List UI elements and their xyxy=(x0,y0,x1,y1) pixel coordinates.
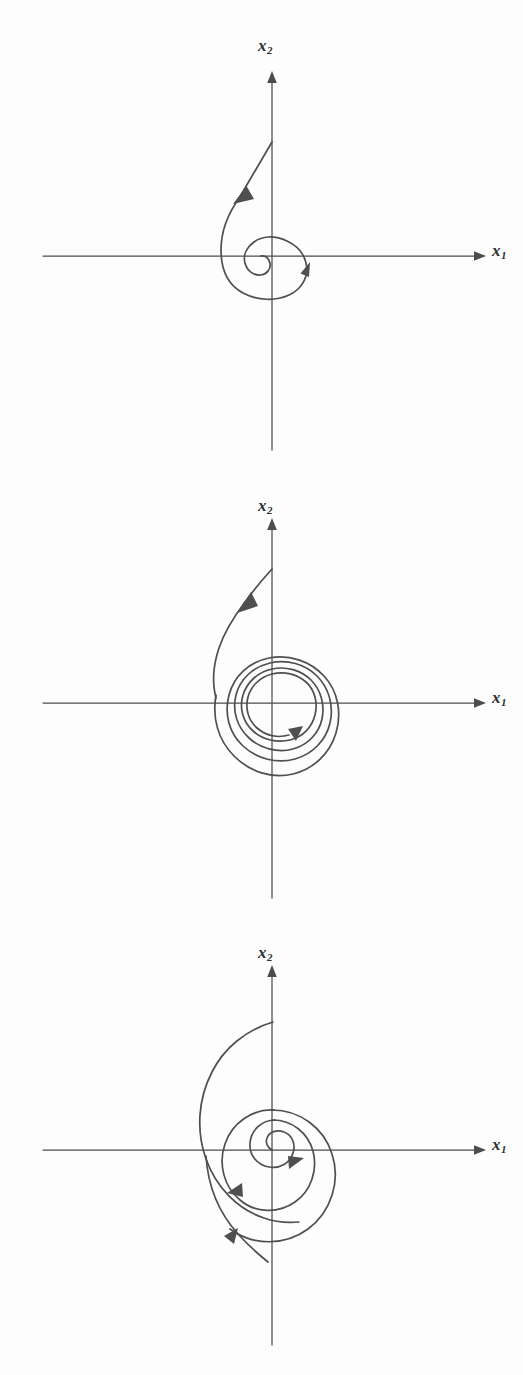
trajectory-p2 xyxy=(214,569,339,776)
trajectory-p1 xyxy=(221,142,310,299)
x2-axis-label-text-p3: x2 xyxy=(258,943,272,963)
x2-axis-p2 xyxy=(267,518,277,898)
x1-axis-p2 xyxy=(43,698,486,708)
x1-axis-label-text-p1: x1 xyxy=(492,241,506,261)
trajectory-p3 xyxy=(200,1022,336,1262)
phase-portrait-panel-1 xyxy=(0,0,523,460)
x1-axis-label-text-p2: x1 xyxy=(492,688,506,708)
x1-axis-label-text-p3: x1 xyxy=(492,1135,506,1155)
x1-axis-p3 xyxy=(43,1145,486,1155)
x2-axis-label-text-p2: x2 xyxy=(258,496,272,516)
x2-axis-label-text-p1: x2 xyxy=(258,36,272,56)
phase-portrait-panel-3 xyxy=(0,900,523,1375)
figure-sheet: x2 x1 x2 x1 x2 x1 xyxy=(0,0,523,1375)
